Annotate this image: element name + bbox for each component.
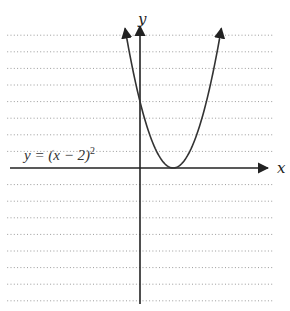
- parabola-chart: x y y = (x − 2)2: [0, 0, 290, 311]
- y-axis-label: y: [137, 10, 147, 28]
- equation-text: y = (x − 2): [22, 147, 90, 164]
- equation-exponent: 2: [90, 145, 95, 156]
- x-axis-label: x: [277, 159, 286, 177]
- equation-label: y = (x − 2)2: [22, 145, 95, 164]
